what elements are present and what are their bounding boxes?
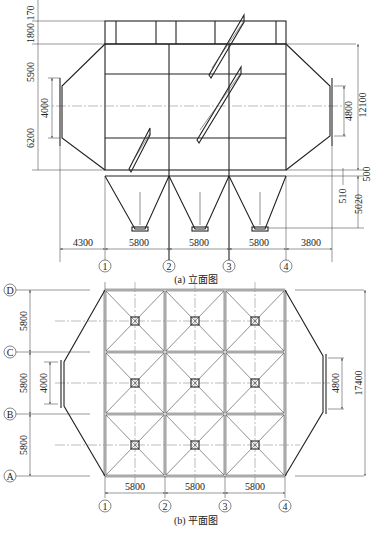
elevation-view: 170 1800 5900 4000 6200 4800 12100 500 5… [25,0,372,286]
dim-5800-2-3: 5800 [185,481,205,492]
dim-5800-c-b: 5800 [18,373,29,393]
svg-text:3: 3 [223,501,228,512]
hoppers [105,176,286,231]
svg-text:A: A [6,471,14,482]
dim-5800-c: 5800 [249,237,269,248]
plan-axis-bubbles: 1 2 3 4 [99,500,291,512]
dim-500: 500 [361,167,372,182]
plan-right-dimensions: 4800 17400 [328,290,365,476]
dim-17400: 17400 [353,371,364,396]
ladders [129,15,244,172]
dim-3800: 3800 [301,237,321,248]
dim-6200: 6200 [25,128,36,148]
outlet-duct [286,44,330,170]
svg-text:D: D [6,285,13,296]
dim-inlet-4000: 4000 [38,373,49,393]
dim-5800-d-c: 5800 [18,311,29,331]
dim-1800: 1800 [25,23,36,43]
top-frame [105,21,286,44]
dim-4000: 4000 [39,98,50,118]
dim-4300: 4300 [73,237,93,248]
elevation-right-dimensions: 4800 12100 500 510 5020 [268,44,372,228]
svg-text:B: B [7,409,14,420]
svg-text:1: 1 [103,261,108,272]
dim-170: 170 [25,6,36,21]
dim-4800: 4800 [343,101,354,121]
inlet-duct [62,44,105,170]
dim-5800-3-4: 5800 [245,481,265,492]
plan-bottom-dimensions: 5800 5800 5800 [105,481,285,493]
svg-text:1: 1 [103,501,108,512]
dim-5800-1-2: 5800 [125,481,145,492]
svg-text:4: 4 [284,261,289,272]
svg-text:2: 2 [163,501,168,512]
svg-text:3: 3 [227,261,232,272]
dim-5800-b-a: 5800 [18,435,29,455]
dim-outlet-4800: 4800 [330,373,341,393]
plan-left-dimensions: 5800 5800 5800 4000 [18,290,58,476]
elevation-axis-bubbles: 1 2 3 4 [99,260,292,272]
svg-text:C: C [7,347,14,358]
drawing-canvas: 170 1800 5900 4000 6200 4800 12100 500 5… [0,0,374,534]
main-body [105,44,286,170]
dim-12100: 12100 [357,93,368,118]
svg-text:4: 4 [283,501,288,512]
plan-caption: (b) 平面图 [174,515,218,527]
elevation-bottom-dimensions: 4300 5800 5800 5800 3800 [60,237,332,249]
dim-5020: 5020 [353,194,364,214]
svg-text:2: 2 [167,261,172,272]
dim-510: 510 [337,189,348,204]
dim-5800-b: 5800 [189,237,209,248]
plan-view: 5800 5800 5800 4000 4800 17400 D C B A [4,282,365,527]
dim-5900: 5900 [25,62,36,82]
dim-5800-a: 5800 [129,237,149,248]
elevation-caption: (a) 立面图 [174,273,218,286]
elevation-left-dimensions: 170 1800 5900 4000 6200 [25,0,105,170]
